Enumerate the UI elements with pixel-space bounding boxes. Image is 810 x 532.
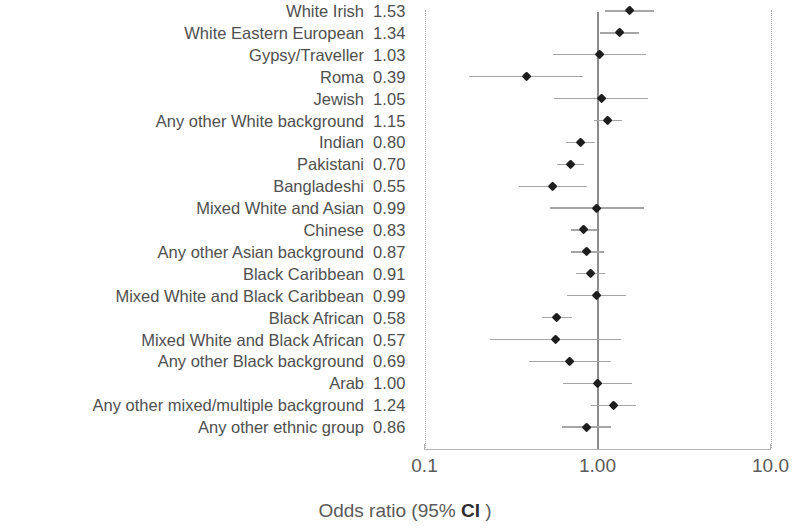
point-estimate-marker [603, 115, 613, 125]
category-label-column: White IrishWhite Eastern EuropeanGypsy/T… [0, 0, 364, 452]
x-axis-title-ci: CI [461, 500, 480, 521]
category-label: Jewish [314, 88, 364, 110]
category-label: Gypsy/Traveller [249, 44, 364, 66]
odds-ratio-value: 1.24 [373, 394, 406, 416]
point-estimate-marker [592, 291, 602, 301]
x-axis-tick [424, 444, 425, 450]
point-estimate-marker [581, 422, 591, 432]
odds-ratio-value: 0.83 [373, 219, 406, 241]
category-label: Chinese [303, 219, 364, 241]
x-axis-title-suffix: ) [480, 500, 492, 521]
odds-ratio-value: 0.91 [373, 263, 406, 285]
point-estimate-marker [592, 203, 602, 213]
right-boundary-line [771, 10, 772, 448]
point-estimate-marker [565, 356, 575, 366]
odds-ratio-value: 0.87 [373, 241, 406, 263]
odds-ratio-value: 1.53 [373, 0, 406, 22]
point-estimate-marker [522, 72, 532, 82]
x-axis-tick-label: 1.00 [579, 455, 616, 477]
odds-ratio-value-column: 1.531.341.030.391.051.150.800.700.550.99… [373, 0, 421, 452]
point-estimate-marker [566, 159, 576, 169]
x-axis-tick [770, 444, 771, 450]
odds-ratio-value: 0.58 [373, 307, 406, 329]
x-axis-tick-label: 10.0 [752, 455, 789, 477]
point-estimate-marker [550, 334, 560, 344]
category-label: Indian [319, 131, 364, 153]
point-estimate-marker [547, 181, 557, 191]
category-label: White Eastern European [184, 22, 364, 44]
odds-ratio-value: 0.55 [373, 175, 406, 197]
odds-ratio-value: 0.86 [373, 416, 406, 438]
point-estimate-marker [585, 269, 595, 279]
point-estimate-marker [609, 400, 619, 410]
odds-ratio-value: 0.39 [373, 66, 406, 88]
category-label: Any other White background [156, 110, 364, 132]
point-estimate-marker [614, 28, 624, 38]
point-estimate-marker [624, 6, 634, 16]
odds-ratio-value: 1.00 [373, 372, 406, 394]
category-label: Any other mixed/multiple background [93, 394, 364, 416]
category-label: Any other ethnic group [198, 416, 364, 438]
category-label: Mixed White and Black Caribbean [115, 285, 364, 307]
left-boundary-line [425, 10, 426, 448]
odds-ratio-value: 1.05 [373, 88, 406, 110]
category-label: Black African [269, 307, 364, 329]
category-label: Any other Black background [158, 350, 364, 372]
category-label: Pakistani [297, 153, 364, 175]
point-estimate-marker [592, 378, 602, 388]
x-axis-title-prefix: Odds ratio (95% [318, 500, 461, 521]
category-label: Bangladeshi [273, 175, 364, 197]
category-label: Black Caribbean [243, 263, 364, 285]
odds-ratio-value: 0.57 [373, 329, 406, 351]
odds-ratio-value: 0.80 [373, 131, 406, 153]
category-label: Arab [329, 372, 364, 394]
category-label: Any other Asian background [158, 241, 364, 263]
odds-ratio-value: 1.15 [373, 110, 406, 132]
category-label: White Irish [286, 0, 364, 22]
point-estimate-marker [578, 225, 588, 235]
odds-ratio-value: 0.69 [373, 350, 406, 372]
point-estimate-marker [576, 137, 586, 147]
x-axis-tick-label: 0.1 [411, 455, 437, 477]
odds-ratio-value: 0.99 [373, 285, 406, 307]
forest-plot: White IrishWhite Eastern EuropeanGypsy/T… [0, 0, 810, 532]
odds-ratio-value: 1.34 [373, 22, 406, 44]
category-label: Roma [320, 66, 364, 88]
odds-ratio-value: 1.03 [373, 44, 406, 66]
odds-ratio-value: 0.70 [373, 153, 406, 175]
point-estimate-marker [551, 313, 561, 323]
x-axis-title: Odds ratio (95% CI ) [0, 500, 810, 522]
x-axis-line [425, 449, 771, 450]
category-label: Mixed White and Asian [196, 197, 364, 219]
category-label: Mixed White and Black African [141, 329, 364, 351]
odds-ratio-value: 0.99 [373, 197, 406, 219]
point-estimate-marker [582, 247, 592, 257]
